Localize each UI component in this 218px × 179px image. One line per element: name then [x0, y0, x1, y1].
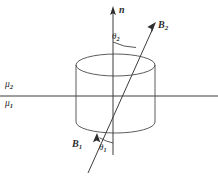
cylinder-bottom-arc [76, 122, 155, 133]
label-field-lower: B1 [72, 139, 82, 151]
field-line-lower-arrowhead [93, 133, 100, 142]
label-field-upper: B2 [158, 20, 168, 32]
physics-diagram-figure: n B2 B1 θ2 θ1 μ2 μ1 [0, 0, 218, 179]
label-permeability-upper: μ2 [5, 80, 13, 90]
theta2-angle-arc [113, 42, 136, 48]
diagram-canvas [0, 0, 218, 179]
field-line-upper-arrowhead [147, 22, 156, 33]
magnetic-field-line [88, 28, 153, 173]
label-permeability-lower: μ1 [5, 99, 13, 109]
label-angle-upper: θ2 [112, 32, 119, 42]
cylinder-top-ellipse [76, 54, 155, 76]
label-normal-axis: n [119, 5, 125, 15]
label-angle-lower: θ1 [99, 143, 106, 153]
